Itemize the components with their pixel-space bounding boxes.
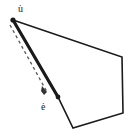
- edge-u-to-e: [13, 20, 58, 97]
- vector-diagram-svg: [0, 0, 136, 139]
- dashed-vector-arrow: [10, 25, 47, 92]
- diagram-canvas: u̇ ė: [0, 0, 136, 139]
- vertex-u-marker: [10, 17, 15, 22]
- polygon-outline: [13, 20, 123, 128]
- vertex-label-u: u̇: [18, 4, 23, 14]
- vertex-label-e: ė: [41, 102, 45, 112]
- vertex-e-marker: [56, 95, 61, 100]
